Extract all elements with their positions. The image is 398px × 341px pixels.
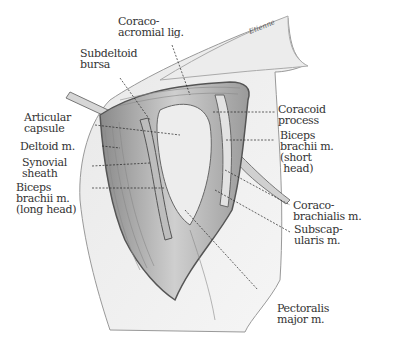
label-articular-capsule: Articularcapsule	[24, 112, 71, 134]
label-line: bursa	[80, 59, 137, 70]
label-line: brachialis m.	[293, 211, 361, 222]
label-line: ularis m.	[294, 235, 342, 246]
label-biceps-long-head: Bicepsbrachii m.(long head)	[16, 182, 76, 215]
label-line: head)	[280, 163, 334, 174]
label-pectoralis-major: Pectoralismajor m.	[277, 303, 329, 325]
label-line: Deltoid m.	[20, 141, 75, 152]
label-line: acromial lig.	[118, 27, 184, 38]
label-biceps-short-head: Bicepsbrachii m.(short head)	[280, 130, 334, 174]
label-line: (long head)	[16, 204, 76, 215]
label-line: process	[278, 115, 326, 126]
label-coraco-acromial-lig: Coraco-acromial lig.	[118, 16, 184, 38]
label-subscapularis: Subscap-ularis m.	[294, 224, 342, 246]
label-synovial-sheath: Synovialsheath	[22, 157, 67, 179]
label-line: sheath	[22, 168, 67, 179]
label-coracobrachialis: Coraco-brachialis m.	[293, 200, 361, 222]
label-line: major m.	[277, 314, 329, 325]
label-coracoid-process: Coracoidprocess	[278, 104, 326, 126]
label-subdeltoid-bursa: Subdeltoidbursa	[80, 48, 137, 70]
label-line: capsule	[24, 123, 71, 134]
anatomical-illustration: Etienne Coraco-acromial lig. Subdeltoidb…	[0, 0, 398, 341]
label-deltoid-m: Deltoid m.	[20, 141, 75, 152]
